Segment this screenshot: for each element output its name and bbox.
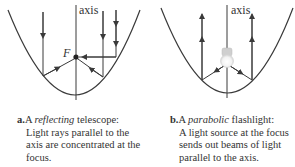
caption-suffix: telescope: [74,114,119,125]
reflecting-telescope-diagram: axis F [0,0,150,110]
caption-reflecting-telescope: a.A reflecting telescope: Light rays par… [17,114,147,164]
parabola-curve [8,10,140,95]
light-bulb-icon [221,48,234,68]
caption-prefix: A [25,114,35,125]
focus-label: F [63,46,70,61]
caption-emphasis: reflecting [35,114,75,125]
parabola-telescope-drawing [0,0,150,110]
axis-label: axis [231,3,250,18]
caption-body: A light source at the focus sends out be… [170,127,295,165]
parabolic-flashlight-diagram: axis [145,0,295,110]
parabola-flashlight-drawing [145,0,295,110]
caption-emphasis: parabolic [188,114,229,125]
caption-body: Light rays parallel to the axis are conc… [17,127,147,165]
focus-point [73,54,78,59]
caption-prefix: A [178,114,188,125]
axis-label: axis [79,3,98,18]
caption-parabolic-flashlight: b.A parabolic flashlight: A light source… [170,114,295,164]
caption-suffix: flashlight: [229,114,274,125]
caption-letter: a. [17,114,25,125]
